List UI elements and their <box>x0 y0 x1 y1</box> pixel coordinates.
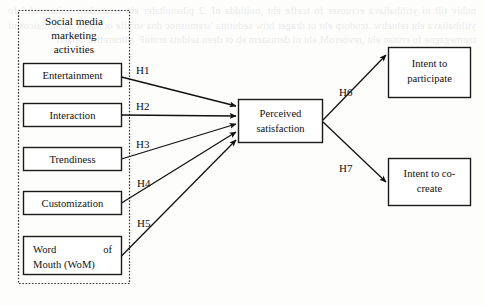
hypothesis-label-h3: H3 <box>136 138 150 150</box>
path-model-figure: nuhiv tiil ni ytilibaliava ecruoser fo t… <box>0 0 484 306</box>
node-entertainment-label: Entertainment <box>42 70 102 81</box>
node-trendiness-label: Trendiness <box>49 154 95 165</box>
edge-h5 <box>122 140 237 256</box>
node-perceived-satisfaction-label-line2: satisfaction <box>256 123 305 134</box>
node-perceived-satisfaction[interactable] <box>239 100 323 143</box>
edge-h7 <box>323 122 386 182</box>
node-intent-to-participate-label-line1: Intent to <box>412 58 448 69</box>
hypothesis-label-h7: H7 <box>339 162 353 174</box>
node-intent-to-co-create-label-line1: Intent to co- <box>404 168 456 179</box>
node-intent-to-co-create-label-line2: create <box>417 183 443 194</box>
node-word-of-mouth-label-line1-right: of <box>103 244 112 255</box>
diagram-canvas: Social media marketing activities Entert… <box>0 0 484 306</box>
node-interaction-label: Interaction <box>50 110 97 121</box>
group-title-line-1: Social media <box>45 15 103 27</box>
node-intent-to-participate-label-line2: participate <box>407 73 452 84</box>
hypothesis-label-h4: H4 <box>137 177 151 189</box>
node-perceived-satisfaction-label-line1: Perceived <box>260 108 302 119</box>
hypothesis-label-h5: H5 <box>137 217 151 229</box>
hypothesis-label-h2: H2 <box>136 100 149 112</box>
node-customization-label: Customization <box>42 198 104 209</box>
hypothesis-label-h1: H1 <box>136 64 149 76</box>
group-title-line-3: activities <box>54 43 94 55</box>
edge-h2 <box>122 115 237 116</box>
node-word-of-mouth-label-line2: Mouth (WoM) <box>33 259 95 271</box>
hypothesis-label-h6: H6 <box>339 86 353 98</box>
node-word-of-mouth-label-line1-left: Word <box>33 244 57 255</box>
group-title-line-2: marketing <box>51 29 97 41</box>
edge-h6 <box>323 55 386 120</box>
